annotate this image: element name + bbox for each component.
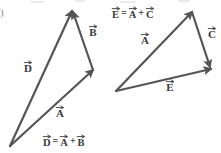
vector-letter: C xyxy=(208,29,216,40)
vector-arrow-left-triangle-b xyxy=(73,12,93,70)
vector-letter: B xyxy=(89,27,96,38)
vector-letter: A xyxy=(141,35,149,46)
vector-symbol-a: A xyxy=(129,6,137,20)
vector-letter: E xyxy=(112,9,119,20)
vector-symbol-b: B xyxy=(89,24,96,38)
vector-symbol-c: C xyxy=(146,6,154,20)
vector-hat-arrow-icon xyxy=(55,105,64,109)
vector-label-left-triangle-a: A xyxy=(56,104,64,120)
vector-letter: C xyxy=(146,9,154,20)
vector-symbol-a: A xyxy=(141,32,149,46)
vector-hat-arrow-icon xyxy=(89,24,98,28)
vector-label-right-triangle-e: E xyxy=(166,78,173,94)
vector-hat-arrow-icon xyxy=(145,6,154,10)
vector-arrow-right-triangle-a xyxy=(116,12,192,91)
vector-hat-arrow-icon xyxy=(166,79,175,83)
vector-letter: A xyxy=(60,137,68,148)
vector-letter: A xyxy=(56,108,64,119)
vector-symbol-c: C xyxy=(208,26,216,40)
vector-label-left-triangle-b: B xyxy=(89,23,96,39)
vector-hat-arrow-icon xyxy=(77,134,86,138)
vector-symbol-d: D xyxy=(43,134,51,148)
vector-hat-arrow-icon xyxy=(207,26,216,30)
vector-hat-arrow-icon xyxy=(23,60,32,64)
vector-letter: D xyxy=(43,137,51,148)
vector-label-right-triangle-a: A xyxy=(141,31,149,47)
vector-symbol-e: E xyxy=(112,6,119,20)
vector-symbol-b: B xyxy=(78,134,85,148)
vector-arrow-right-triangle-e xyxy=(116,69,211,91)
vector-label-right-triangle-c: C xyxy=(208,25,216,41)
vector-letter: D xyxy=(24,63,32,74)
figure-canvas: ) ABDD=A+BACEE=A+C xyxy=(0,0,221,153)
vector-symbol-a: A xyxy=(60,134,68,148)
vector-equation-left-triangle: D=A+B xyxy=(43,133,85,149)
vector-symbol-d: D xyxy=(24,60,32,74)
vector-label-left-triangle-d: D xyxy=(24,59,32,75)
vector-arrow-left-triangle-d xyxy=(10,11,72,146)
vector-letter: B xyxy=(78,137,85,148)
vector-arrows-svg xyxy=(0,0,221,153)
vector-symbol-e: E xyxy=(166,79,173,93)
vector-letter: A xyxy=(129,9,137,20)
vector-equation-right-triangle: E=A+C xyxy=(112,5,154,21)
vector-symbol-a: A xyxy=(56,105,64,119)
vector-letter: E xyxy=(166,82,173,93)
vector-hat-arrow-icon xyxy=(140,32,149,36)
